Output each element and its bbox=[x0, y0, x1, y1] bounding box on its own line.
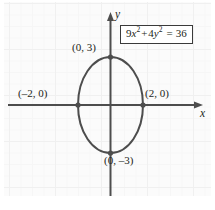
y-axis-label: y bbox=[115, 9, 120, 21]
point-label-left: (–2, 0) bbox=[18, 88, 47, 99]
equation-exponent-y: 2 bbox=[159, 25, 163, 34]
x-axis-label: x bbox=[200, 108, 205, 120]
equation-equals: = bbox=[163, 27, 176, 39]
equation-rhs: 36 bbox=[176, 27, 187, 39]
point-label-top: (0, 3) bbox=[72, 42, 96, 53]
y-axis-arrow-icon bbox=[107, 12, 114, 21]
ellipse-figure: y x (0, 3) (–2, 0) (2, 0) (0, –3) 9x2+4y… bbox=[0, 0, 215, 210]
point-label-right: (2, 0) bbox=[145, 88, 169, 99]
point-marker-left bbox=[75, 102, 80, 107]
point-label-bottom: (0, –3) bbox=[104, 155, 133, 166]
equation-box: 9x2+4y2=36 bbox=[120, 25, 193, 44]
point-marker-top bbox=[108, 54, 113, 59]
point-marker-right bbox=[140, 102, 145, 107]
